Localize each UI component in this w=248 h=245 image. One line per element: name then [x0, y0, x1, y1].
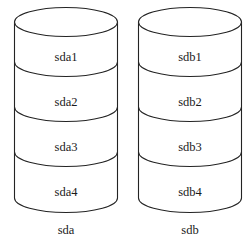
partition-label-sdb4: sdb4	[178, 185, 202, 199]
partition-label-sdb1: sdb1	[178, 50, 202, 64]
partition-label-sdb2: sdb2	[178, 95, 202, 109]
partition-label-sda3: sda3	[55, 140, 78, 154]
disk-cylinder-sdb[interactable]: sdb1 sdb2 sdb3 sdb4	[139, 8, 242, 213]
disk-caption-sdb: sdb	[181, 223, 198, 237]
cylinder-top-cap-sda	[15, 8, 118, 37]
disk-caption-sda: sda	[58, 223, 75, 237]
partition-label-sda4: sda4	[55, 185, 79, 199]
disk-cylinder-sda[interactable]: sda1 sda2 sda3 sda4	[15, 8, 118, 213]
partition-label-sda1: sda1	[55, 50, 78, 64]
partition-label-sda2: sda2	[55, 95, 78, 109]
disk-partition-diagram: sda1 sda2 sda3 sda4 sda sdb1 sdb2 sdb3 s…	[0, 0, 248, 245]
disk-diagram-canvas: sda1 sda2 sda3 sda4 sda sdb1 sdb2 sdb3 s…	[0, 0, 248, 245]
partition-label-sdb3: sdb3	[178, 140, 202, 154]
cylinder-top-cap-sdb	[139, 8, 242, 37]
